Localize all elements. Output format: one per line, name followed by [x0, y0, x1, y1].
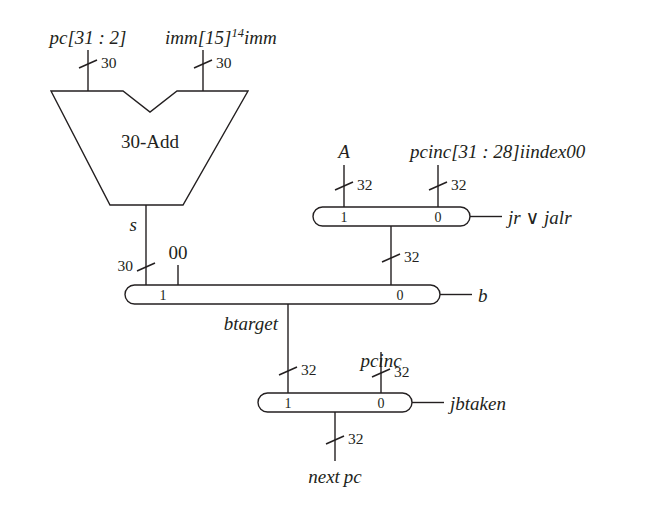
circuit-diagram: 30-Add pc[31 : 2] imm[15]14imm 30 30 s 3…: [0, 0, 651, 513]
imm-tail: imm: [244, 27, 277, 48]
width-a: 32: [357, 176, 373, 193]
circuit-svg: 30-Add pc[31 : 2] imm[15]14imm 30 30 s 3…: [0, 0, 651, 513]
adder-label: 30-Add: [121, 131, 180, 152]
imm-base: imm[15]: [165, 27, 232, 48]
width-nextpc: 32: [348, 430, 364, 447]
jr-jalr-mux-port-1: 1: [341, 210, 348, 225]
width-sum: 30: [118, 257, 134, 274]
nextpc-label: nextpc: [308, 466, 362, 487]
jr-jalr-select-label: jr ∨ jalr: [505, 207, 572, 228]
a-input-label: A: [336, 141, 350, 162]
width-jumptarget: 32: [451, 176, 467, 193]
branch-mux-shape[interactable]: [125, 285, 440, 304]
jbtaken-mux-shape[interactable]: [258, 393, 412, 412]
width-pc: 30: [101, 54, 117, 71]
jbtaken-select-label: jbtaken: [447, 393, 506, 414]
width-imm: 30: [216, 54, 232, 71]
const-00-label: 00: [169, 242, 188, 263]
sum-label: s: [130, 214, 137, 235]
branch-select-label: b: [478, 285, 488, 306]
jbtaken-mux-port-1: 1: [285, 396, 292, 411]
imm-sign-extend-label: imm[15]14imm: [165, 26, 277, 48]
branch-mux-port-1: 1: [160, 288, 167, 303]
width-pcinc: 32: [394, 363, 410, 380]
pc-slice-label: pc[31 : 2]: [47, 27, 126, 48]
imm-superscript: 14: [232, 26, 245, 40]
jump-target-label: pcinc[31 : 28]iindex00: [408, 141, 586, 162]
width-jrmux-out: 32: [404, 248, 420, 265]
jr-jalr-mux-port-0: 0: [435, 210, 442, 225]
width-btarget: 32: [301, 361, 317, 378]
nextpc-suffix: pc: [342, 466, 363, 487]
branch-mux-port-0: 0: [397, 288, 404, 303]
jr-jalr-mux-shape[interactable]: [313, 207, 470, 226]
nextpc-prefix: next: [308, 466, 340, 487]
btarget-label: btarget: [224, 313, 279, 334]
jbtaken-mux-port-0: 0: [378, 396, 385, 411]
